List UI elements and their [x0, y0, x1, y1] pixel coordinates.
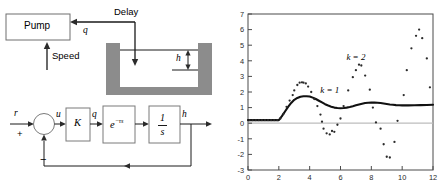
h-arrowhead-up [185, 50, 190, 55]
data-point [364, 74, 366, 76]
data-point [329, 133, 331, 135]
flow-arrowhead-q-block [97, 121, 103, 127]
data-point [279, 117, 281, 119]
x-axis-tick-label: 4 [308, 173, 312, 182]
pump-box-label: Pump [24, 21, 50, 31]
flow-label-q: q [83, 26, 88, 36]
y-axis-tick-label: 4 [240, 57, 244, 66]
data-point [270, 119, 272, 121]
y-axis-tick-label: 0 [240, 119, 244, 128]
delay-pipe-arrowhead [132, 59, 138, 66]
data-point [292, 94, 294, 96]
summing-junction [34, 114, 55, 135]
y-axis-tick-label: -3 [237, 166, 244, 175]
reference-label-r: r [14, 109, 18, 119]
data-point [261, 119, 263, 121]
data-point [319, 113, 321, 115]
pump-tank-schematic [0, 0, 222, 97]
data-point [316, 105, 318, 107]
data-point [375, 121, 377, 123]
data-point [313, 98, 315, 100]
y-axis-tick-label: 1 [240, 103, 244, 112]
data-point [360, 64, 362, 66]
data-point [347, 89, 349, 91]
data-point [355, 69, 357, 71]
data-point [426, 57, 428, 59]
data-point [418, 28, 420, 30]
data-point [299, 81, 301, 83]
delay-block-label: e−τs [110, 118, 123, 130]
data-point [251, 119, 253, 121]
data-point [342, 105, 344, 107]
data-point [325, 132, 327, 134]
x-axis-tick-label: 2 [277, 173, 281, 182]
data-point [406, 69, 408, 71]
data-point [267, 119, 269, 121]
feedback-arrowhead-sum [41, 135, 47, 141]
plot-frame [248, 14, 433, 170]
speed-label: Speed [52, 51, 79, 61]
data-point [396, 120, 398, 122]
flow-label-q-block: q [92, 110, 97, 120]
data-point [415, 35, 417, 37]
output-arrowhead [206, 121, 212, 127]
data-point [358, 64, 360, 66]
h-arrowhead-down [185, 65, 190, 70]
error-arrowhead-u [60, 121, 66, 127]
figure-root: Pump Speed Delay q h [0, 0, 444, 194]
data-point [248, 119, 250, 121]
data-point [321, 120, 323, 122]
integrator-numerator: 1 [158, 113, 167, 124]
x-axis-tick-label: 10 [398, 173, 406, 182]
data-point [288, 99, 290, 101]
y-axis-tick-label: 3 [240, 72, 244, 81]
data-point [410, 47, 412, 49]
data-point [336, 124, 338, 126]
data-point [331, 130, 333, 132]
y-axis-tick-label: 5 [240, 41, 244, 50]
data-point [273, 119, 275, 121]
data-point [379, 128, 381, 130]
level-label-h: h [176, 54, 181, 64]
data-point [310, 91, 312, 93]
delay-label: Delay [114, 7, 138, 17]
data-point [383, 143, 385, 145]
annotation-label: k = 2 [346, 52, 366, 62]
data-point [372, 106, 374, 108]
output-label-h: h [182, 110, 187, 120]
data-point [352, 76, 354, 78]
minus-sign-label: − [40, 154, 46, 165]
x-axis-tick-label: 8 [369, 173, 373, 182]
error-label-u: u [56, 110, 61, 120]
tank-wall [106, 43, 212, 95]
data-point [333, 131, 335, 133]
integrator-block-label: 1 s [158, 113, 167, 137]
integrator-input-arrowhead [143, 121, 149, 127]
data-point [307, 85, 309, 87]
data-point [403, 94, 405, 96]
step-response-chart: -3-2-101234567024681012k = 2k = 1 [222, 0, 444, 194]
y-axis-tick-label: 7 [240, 10, 244, 19]
x-axis-tick-label: 12 [429, 173, 437, 182]
data-point [421, 37, 423, 39]
data-point [322, 128, 324, 130]
y-axis-tick-label: -1 [237, 135, 244, 144]
data-point [386, 156, 388, 158]
data-point [255, 119, 257, 121]
data-point [429, 86, 431, 88]
data-point [302, 81, 304, 83]
data-point [258, 119, 260, 121]
data-point [339, 117, 341, 119]
data-point [369, 89, 371, 91]
y-axis-tick-label: 2 [240, 88, 244, 97]
data-point [393, 141, 395, 143]
x-axis-tick-label: 6 [338, 173, 342, 182]
data-point [305, 82, 307, 84]
flow-arrowhead-q [70, 19, 77, 25]
annotation-label: k = 1 [320, 85, 339, 95]
x-axis-tick-label: 0 [246, 173, 250, 182]
plus-sign-label: + [17, 129, 23, 139]
data-point [276, 119, 278, 121]
y-axis-tick-label: 6 [240, 25, 244, 34]
block-diagram-svg [0, 97, 222, 194]
